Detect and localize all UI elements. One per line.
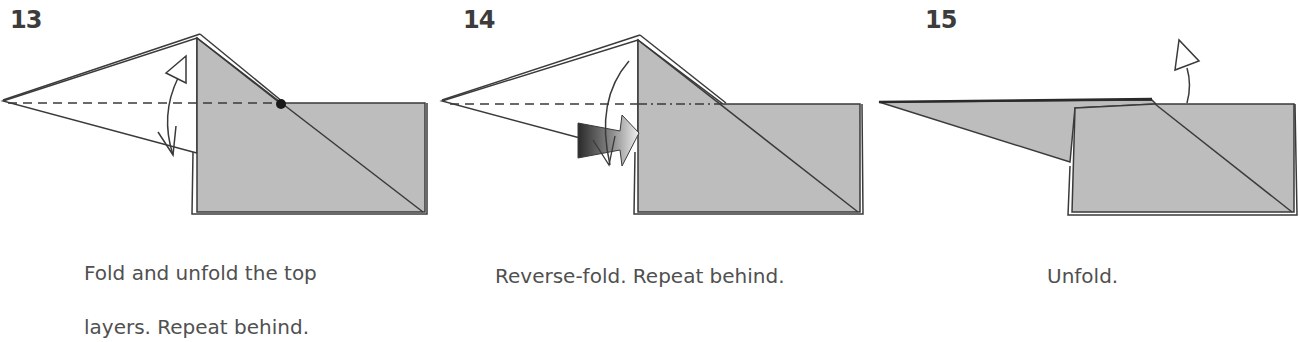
gray-paper — [638, 35, 860, 212]
step-14-caption: Reverse-fold. Repeat behind. — [495, 236, 785, 317]
caption-line-1: Reverse-fold. Repeat behind. — [495, 263, 785, 290]
gray-paper — [197, 34, 425, 212]
step-15-caption: Unfold. — [1047, 236, 1118, 317]
white-flap — [442, 35, 640, 138]
unfold-arrow-icon — [1175, 40, 1199, 103]
step-14-diagram — [430, 0, 870, 230]
step-14: 14 Re — [430, 0, 870, 298]
caption-line-2: layers. Repeat behind. — [84, 314, 317, 341]
gray-paper — [1072, 104, 1294, 212]
caption-line-1: Fold and unfold the top — [84, 260, 317, 287]
step-15-diagram — [860, 0, 1299, 230]
step-15: 15 Unfold. — [860, 0, 1299, 298]
reference-dot-icon — [276, 99, 286, 109]
caption-line-1: Unfold. — [1047, 263, 1118, 290]
step-13-caption: Fold and unfold the top layers. Repeat b… — [84, 233, 317, 342]
white-flap — [3, 34, 200, 153]
step-13-diagram — [0, 0, 440, 230]
step-13: 13 Fold and unfold the top layers. Repea — [0, 0, 440, 298]
